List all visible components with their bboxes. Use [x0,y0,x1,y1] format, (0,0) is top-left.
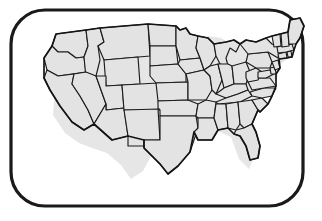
state-nd [148,24,176,46]
state-ks [156,82,188,101]
us-map-svg [0,0,322,221]
state-ok [158,100,198,116]
map-stage [0,0,322,221]
illustration-canvas [0,0,322,221]
state-sd [150,46,178,66]
state-mt [98,24,150,60]
state-wy [104,57,140,86]
state-co [122,83,160,110]
